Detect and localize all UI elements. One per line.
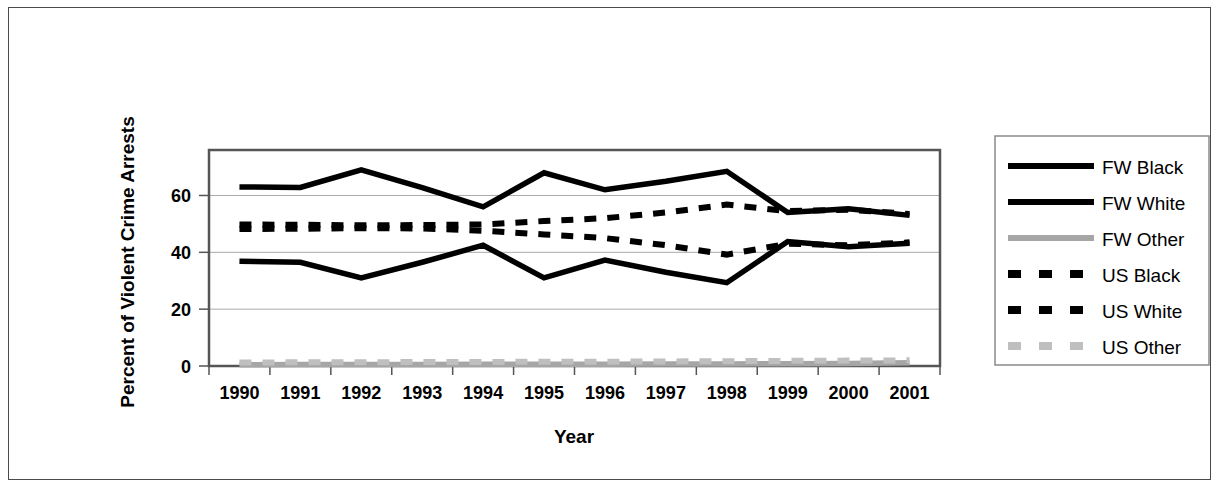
y-axis-title: Percent of Violent Crime Arrests: [117, 116, 138, 407]
y-tick-label: 0: [181, 357, 191, 377]
legend-label-fw-white: FW White: [1102, 193, 1185, 214]
x-tick-label: 1999: [768, 383, 808, 403]
x-tick-label: 1994: [463, 383, 503, 403]
y-tick-label: 40: [171, 243, 191, 263]
x-tick-label: 1997: [646, 383, 686, 403]
x-axis-title: Year: [554, 426, 595, 447]
legend-label-fw-other: FW Other: [1102, 229, 1185, 250]
x-tick-label: 2000: [829, 383, 869, 403]
y-tick-label: 20: [171, 300, 191, 320]
legend-label-us-other: US Other: [1102, 337, 1182, 358]
chart-figure: 0204060 19901991199219931994199519961997…: [0, 0, 1221, 497]
x-tick-label: 1991: [280, 383, 320, 403]
line-chart: 0204060 19901991199219931994199519961997…: [0, 0, 1221, 497]
legend-label-us-white: US White: [1102, 301, 1182, 322]
x-tick-label: 1993: [402, 383, 442, 403]
x-tick-label: 1998: [707, 383, 747, 403]
x-tick-label: 1995: [524, 383, 564, 403]
y-tick-label: 60: [171, 186, 191, 206]
y-axis: 0204060: [171, 186, 209, 377]
x-tick-label: 2001: [890, 383, 930, 403]
x-tick-label: 1992: [341, 383, 381, 403]
legend-label-fw-black: FW Black: [1102, 157, 1184, 178]
x-tick-label: 1990: [219, 383, 259, 403]
x-tick-label: 1996: [585, 383, 625, 403]
legend-label-us-black: US Black: [1102, 265, 1181, 286]
x-axis: 1990199119921993199419951996199719981999…: [209, 366, 940, 403]
